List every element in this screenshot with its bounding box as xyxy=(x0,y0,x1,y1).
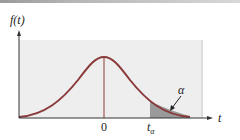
tick-talpha: tα xyxy=(147,121,155,136)
alpha-label: α xyxy=(178,84,184,96)
plot-background xyxy=(19,40,202,118)
y-axis-arrow-icon xyxy=(17,30,21,36)
t-distribution-chart xyxy=(0,0,240,140)
x-axis-arrow-icon xyxy=(207,116,213,120)
tick-zero: 0 xyxy=(101,121,107,133)
x-axis-label: t xyxy=(218,112,221,124)
y-axis-label: f(t) xyxy=(10,14,25,26)
